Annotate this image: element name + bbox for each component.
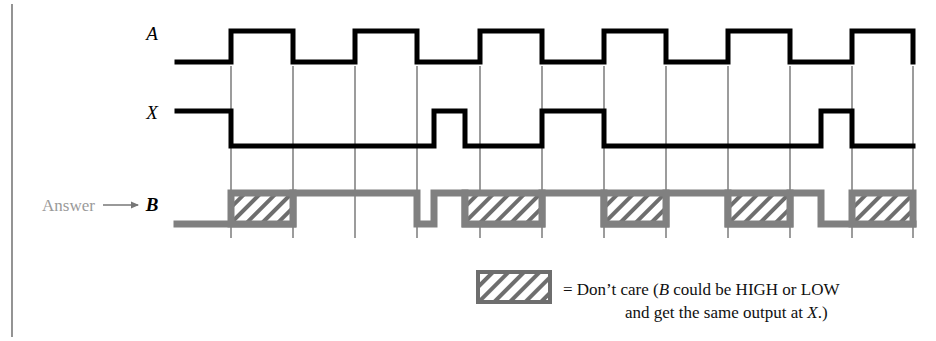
dont-care-region	[604, 193, 666, 224]
timing-gridlines	[231, 66, 913, 238]
signal-label-b: B	[145, 194, 159, 215]
waveform-a	[177, 31, 913, 62]
dont-care-region	[728, 193, 790, 224]
dont-care-region	[231, 193, 293, 224]
timing-diagram-figure: A X B Answer = Don’t care (B could be HI…	[0, 0, 936, 341]
waveform-x	[177, 111, 913, 146]
dont-care-region	[465, 193, 542, 224]
legend: = Don’t care (B could be HIGH or LOW and…	[478, 272, 840, 322]
dont-care-region	[852, 193, 913, 224]
dont-care-swatch-icon	[478, 272, 550, 302]
waveform-trace-a	[177, 31, 913, 62]
waveform-b	[177, 193, 913, 224]
waveform-trace-x	[177, 111, 913, 146]
legend-line-1: = Don’t care (B could be HIGH or LOW	[563, 280, 840, 299]
timing-diagram-canvas: A X B Answer = Don’t care (B could be HI…	[0, 0, 936, 341]
signal-label-a: A	[144, 23, 158, 44]
answer-annotation-text: Answer	[42, 196, 95, 215]
legend-line-2: and get the same output at X.)	[625, 303, 828, 322]
signal-label-x: X	[145, 102, 159, 123]
